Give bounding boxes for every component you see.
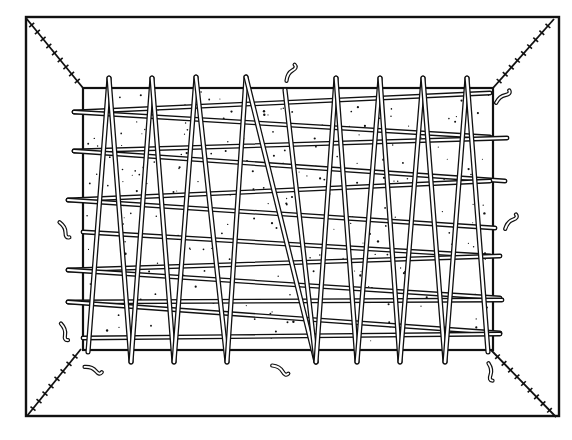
stipple-dot (384, 207, 386, 209)
stipple-dot (468, 243, 469, 244)
stipple-dot (148, 271, 150, 273)
stipple-dot (204, 270, 206, 272)
twig-outline (58, 221, 69, 238)
stipple-dot (395, 217, 396, 218)
stipple-dot (227, 141, 228, 142)
stipple-dot (393, 180, 394, 181)
stipple-dot (200, 91, 202, 93)
stipple-dot (275, 330, 277, 332)
stipple-dot (472, 204, 473, 205)
stipple-dot (267, 114, 268, 115)
twig-bottom-left-icon (84, 366, 102, 375)
stipple-dot (291, 196, 293, 198)
stipple-dot (272, 131, 274, 133)
stipple-dot (118, 314, 120, 316)
stipple-dot (448, 232, 450, 234)
stipple-dot (268, 203, 269, 204)
stipple-dot (473, 246, 474, 247)
stipple-dot (467, 168, 469, 170)
stipple-dot (350, 111, 352, 113)
stipple-dot (438, 147, 439, 148)
stipple-dot (263, 187, 265, 189)
stipple-dot (314, 137, 316, 139)
stipple-dot (134, 170, 136, 172)
stipple-dot (271, 222, 273, 224)
stipple-dot (368, 286, 369, 287)
stipple-dot (483, 205, 484, 206)
stipple-dot (477, 112, 479, 114)
stipple-dot (448, 118, 450, 120)
stipple-dot (391, 108, 393, 110)
stipple-dot (306, 175, 307, 176)
stipple-dot (475, 326, 477, 328)
stipple-dot (420, 306, 421, 307)
stipple-dot (208, 99, 210, 101)
twig-top-center-icon (285, 64, 296, 81)
seam-line (27, 349, 81, 416)
stipple-dot (447, 159, 448, 160)
twig-bottom-center-icon (272, 364, 289, 375)
stipple-dot (150, 325, 152, 327)
stipple-dot (181, 154, 183, 156)
stipple-dot (86, 215, 88, 217)
stipple-dot (229, 258, 231, 260)
stipple-dot (287, 321, 289, 323)
stipple-dot (284, 149, 286, 151)
stipple-dot (390, 116, 391, 117)
stipple-dot (263, 114, 265, 116)
stipple-dot (203, 248, 205, 250)
stipple-dot (94, 138, 95, 139)
stipple-dot (375, 254, 376, 255)
stipple-dot (387, 254, 389, 256)
stipple-dot (400, 267, 401, 268)
stipple-dot (121, 145, 122, 146)
stipple-dot (138, 174, 140, 176)
stipple-dot (309, 257, 311, 259)
stipple-dot (289, 294, 291, 296)
twig-left-lower-icon (60, 323, 69, 341)
stipple-dot (460, 100, 462, 102)
stipple-dot (120, 133, 122, 135)
stipple-dot (456, 116, 457, 117)
stipple-dot (155, 293, 157, 295)
stipple-dot (377, 240, 379, 242)
stipple-dot (130, 213, 132, 215)
stipple-dot (254, 318, 256, 320)
stipple-dot (144, 129, 145, 130)
stipple-dot (211, 248, 212, 249)
stipple-dot (276, 227, 278, 229)
stipple-dot (136, 121, 137, 122)
stipple-dot (106, 329, 108, 331)
stipple-dot (442, 211, 443, 212)
stipple-dot (96, 173, 98, 175)
stipple-dot (358, 134, 359, 135)
stipple-dot (195, 286, 197, 288)
stipple-dot (278, 276, 279, 277)
stipple-dot (472, 222, 473, 223)
stipple-dot (118, 327, 119, 328)
stipple-dot (230, 110, 232, 112)
stipple-dot (482, 159, 483, 160)
stipple-dot (354, 270, 355, 271)
stipple-dot (184, 134, 185, 135)
stipple-dot (370, 340, 371, 341)
stipple-dot (286, 198, 287, 199)
twig-bottom-right-icon (487, 363, 493, 381)
stipple-dot (388, 303, 390, 305)
stipple-dot (408, 126, 409, 127)
stipple-dot (153, 161, 155, 163)
stipple-dot (132, 175, 133, 176)
stipple-dot (197, 181, 198, 182)
stipple-dot (454, 121, 456, 123)
stipple-dot (299, 171, 300, 172)
stipple-dot (221, 232, 223, 234)
stipple-dot (219, 98, 220, 99)
stipple-dot (124, 217, 125, 218)
stipple-dot (176, 191, 177, 192)
seam-top-right (493, 19, 554, 88)
stipple-dot (350, 223, 351, 224)
woven-lattice-drawing (0, 0, 572, 440)
stipple-dot (476, 318, 477, 319)
stipple-dot (362, 243, 363, 244)
stipple-dot (319, 254, 321, 256)
